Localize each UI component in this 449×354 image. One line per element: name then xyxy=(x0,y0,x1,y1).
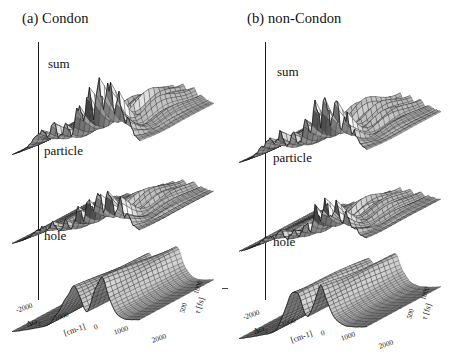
panel-separator-dash xyxy=(222,288,228,289)
figure-root: (a) Condon sum particle hole -2000 -1000… xyxy=(0,0,449,354)
panel-a-condon: (a) Condon sum particle hole -2000 -1000… xyxy=(0,0,224,354)
panel-b-title: (b) non-Condon xyxy=(247,10,341,27)
panel-a-title: (a) Condon xyxy=(22,10,89,27)
panel-a-xaxis-symbol: Δω xyxy=(25,317,38,329)
panel-b-xaxis-symbol: Δω xyxy=(252,324,265,336)
panel-b-non-condon: (b) non-Condon sum particle hole -2000 -… xyxy=(225,0,449,354)
